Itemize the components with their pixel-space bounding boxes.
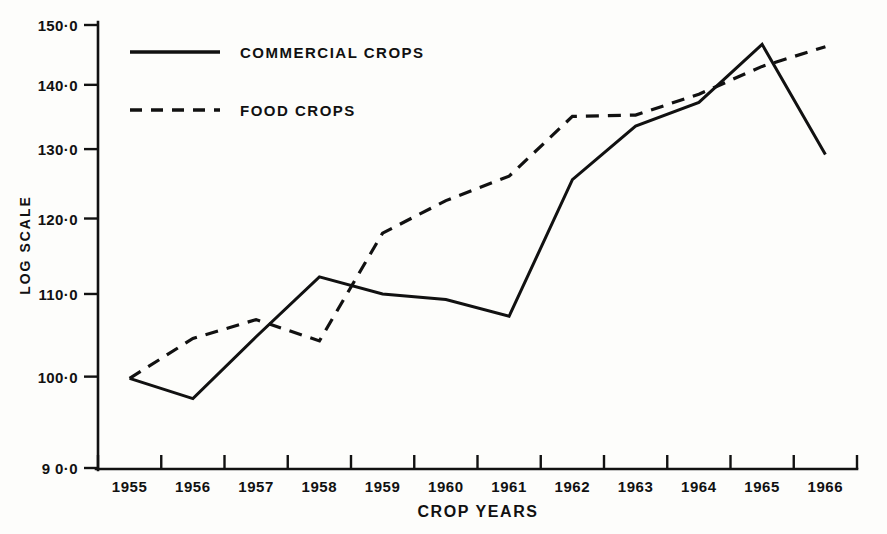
y-tick-label: 140·0 [38,77,78,94]
series-line-commercial-crops [130,44,826,398]
chart-figure: 150·0140·0130·0120·0110·0100·09 0·0 1955… [0,0,887,534]
y-axis-title: LOG SCALE [17,195,33,295]
x-axis-title: CROP YEARS [417,503,538,520]
y-tick-label: 9 0·0 [42,460,78,477]
x-tick-label: 1966 [807,478,843,495]
y-tick-label: 130·0 [38,141,78,158]
x-axis-ticks [98,455,857,469]
y-tick-label: 120·0 [38,211,78,228]
x-tick-label: 1959 [365,478,401,495]
y-tick-label: 100·0 [38,369,78,386]
legend-label-commercial-crops: COMMERCIAL CROPS [240,44,425,61]
x-tick-label: 1960 [428,478,464,495]
chart-legend: COMMERCIAL CROPS FOOD CROPS [130,44,425,119]
x-tick-label: 1961 [491,478,527,495]
x-tick-label: 1958 [301,478,337,495]
line-chart-canvas: 150·0140·0130·0120·0110·0100·09 0·0 1955… [0,0,887,534]
y-axis-ticks [84,25,98,468]
x-tick-label: 1957 [238,478,274,495]
legend-label-food-crops: FOOD CROPS [240,102,356,119]
x-tick-label: 1965 [744,478,780,495]
y-axis-tick-labels: 150·0140·0130·0120·0110·0100·09 0·0 [38,17,78,477]
series-line-food-crops [130,47,826,379]
x-tick-label: 1962 [554,478,590,495]
y-tick-label: 150·0 [38,17,78,34]
x-tick-label: 1956 [175,478,211,495]
x-tick-label: 1955 [112,478,148,495]
y-tick-label: 110·0 [38,286,78,303]
x-tick-label: 1963 [618,478,654,495]
x-tick-label: 1964 [681,478,717,495]
x-axis-tick-labels: 1955195619571958195919601961196219631964… [112,478,844,495]
